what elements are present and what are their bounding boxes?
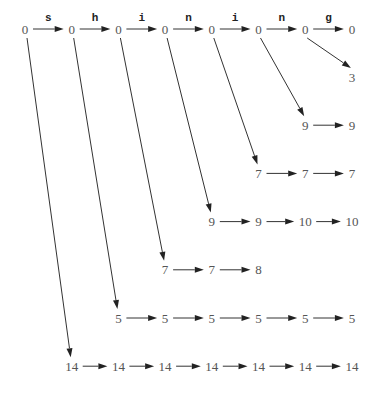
diagonal-edge-head bbox=[159, 251, 165, 260]
lattice-diagram: 00000000shining3997779910107785555551414… bbox=[0, 0, 374, 393]
diagonal-edge-head bbox=[67, 348, 73, 357]
row-node: 5 bbox=[115, 311, 122, 326]
top-node: 0 bbox=[115, 22, 122, 37]
row-node: 10 bbox=[345, 214, 358, 229]
diagonal-edge bbox=[74, 38, 116, 300]
row-edge-head bbox=[98, 363, 107, 369]
edge-label: s bbox=[45, 12, 52, 24]
edge-label: i bbox=[232, 12, 239, 24]
row-node: 7 bbox=[349, 166, 356, 181]
row-edge-head bbox=[332, 219, 341, 225]
edge-label: n bbox=[185, 12, 192, 24]
row-node: 5 bbox=[209, 311, 216, 326]
diagonal-edge bbox=[214, 38, 255, 156]
row-edge-head bbox=[335, 315, 344, 321]
row-node: 3 bbox=[349, 70, 356, 85]
row-node: 5 bbox=[255, 311, 262, 326]
row-node: 10 bbox=[299, 214, 312, 229]
diagonal-edge bbox=[27, 38, 69, 348]
row-node: 7 bbox=[209, 262, 216, 277]
edge-label: i bbox=[138, 12, 145, 24]
top-node: 0 bbox=[255, 22, 262, 37]
row-node: 7 bbox=[162, 262, 169, 277]
row-node: 7 bbox=[255, 166, 262, 181]
row-node: 14 bbox=[65, 359, 79, 374]
row-node: 9 bbox=[255, 214, 262, 229]
row-edge-head bbox=[195, 267, 204, 273]
diagonal-edge-head bbox=[297, 107, 304, 116]
top-node: 0 bbox=[162, 22, 169, 37]
diagonal-edge-head bbox=[113, 300, 119, 309]
row-node: 7 bbox=[302, 166, 309, 181]
row-node: 9 bbox=[349, 118, 356, 133]
row-node: 14 bbox=[159, 359, 173, 374]
row-node: 14 bbox=[299, 359, 313, 374]
top-edge-head bbox=[242, 26, 251, 32]
diagram-canvas: 00000000shining3997779910107785555551414… bbox=[0, 0, 374, 393]
edge-label: h bbox=[92, 12, 99, 24]
top-edge-head bbox=[195, 26, 204, 32]
row-node: 9 bbox=[302, 118, 309, 133]
row-edge-head bbox=[145, 363, 154, 369]
row-node: 14 bbox=[205, 359, 219, 374]
top-node: 0 bbox=[209, 22, 216, 37]
edge-label: n bbox=[279, 12, 286, 24]
row-node: 5 bbox=[349, 311, 356, 326]
diagonal-edge-head bbox=[342, 60, 351, 68]
top-edge-head bbox=[55, 26, 64, 32]
row-edge-head bbox=[242, 219, 251, 225]
top-edge-head bbox=[101, 26, 110, 32]
row-edge-head bbox=[285, 363, 294, 369]
row-edge-head bbox=[242, 315, 251, 321]
top-node: 0 bbox=[349, 22, 356, 37]
row-node: 14 bbox=[252, 359, 266, 374]
row-node: 5 bbox=[302, 311, 309, 326]
row-edge-head bbox=[242, 267, 251, 273]
row-edge-head bbox=[332, 363, 341, 369]
diagonal-edge-head bbox=[252, 155, 258, 164]
diagonal-edge bbox=[120, 38, 162, 252]
row-edge-head bbox=[288, 170, 297, 176]
row-edge-head bbox=[335, 122, 344, 128]
row-node: 5 bbox=[162, 311, 169, 326]
diagonal-edge bbox=[307, 38, 343, 63]
row-edge-head bbox=[192, 363, 201, 369]
row-edge-head bbox=[195, 315, 204, 321]
top-node: 0 bbox=[302, 22, 309, 37]
row-edge-head bbox=[288, 315, 297, 321]
top-node: 0 bbox=[68, 22, 75, 37]
row-node: 14 bbox=[112, 359, 126, 374]
diagonal-edge bbox=[167, 38, 209, 204]
row-edge-head bbox=[148, 315, 157, 321]
row-edge-head bbox=[335, 170, 344, 176]
top-edge-head bbox=[148, 26, 157, 32]
top-edge-head bbox=[335, 26, 344, 32]
top-node: 0 bbox=[22, 22, 29, 37]
row-edge-head bbox=[285, 219, 294, 225]
top-edge-head bbox=[288, 26, 297, 32]
row-node: 9 bbox=[209, 214, 216, 229]
row-edge-head bbox=[239, 363, 248, 369]
edge-label: g bbox=[325, 12, 332, 24]
diagonal-edge-head bbox=[206, 203, 212, 212]
diagonal-edge bbox=[261, 38, 300, 108]
row-node: 14 bbox=[345, 359, 359, 374]
row-node: 8 bbox=[255, 262, 262, 277]
